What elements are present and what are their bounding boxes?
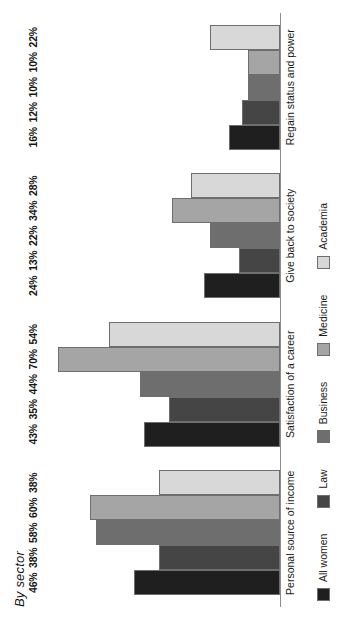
legend-item[interactable]: Law: [317, 469, 330, 507]
bar-slot: 54%: [42, 322, 280, 347]
bar-slot: 60%: [42, 495, 280, 520]
category-axis-line: [280, 13, 281, 607]
legend-swatch-icon: [317, 343, 330, 356]
bar[interactable]: 12%: [242, 100, 280, 125]
bar[interactable]: 43%: [144, 422, 280, 447]
bar-slot: 58%: [42, 520, 280, 545]
bar-slot: 28%: [42, 173, 280, 198]
bar-group: 24%13%22%34%28%: [42, 162, 280, 311]
plot-area: 46%38%58%60%38%43%35%44%70%54%24%13%22%3…: [42, 13, 280, 607]
bar-value-label: 34%: [27, 200, 39, 221]
bar[interactable]: 22%: [210, 25, 280, 50]
bar-value-label: 22%: [27, 225, 39, 246]
bar-slot: 22%: [42, 223, 280, 248]
bar-slot: 10%: [42, 75, 280, 100]
legend-label: Academia: [317, 203, 329, 250]
category-axis-labels: Personal source of incomeSatisfaction of…: [284, 13, 304, 607]
bar-value-label: 28%: [27, 175, 39, 196]
bar-value-label: 54%: [27, 324, 39, 345]
chart-rotation-container: By sector 46%38%58%60%38%43%35%44%70%54%…: [0, 0, 355, 621]
legend-label: All women: [317, 534, 329, 582]
bar-value-label: 43%: [27, 424, 39, 445]
bar-group: 16%12%10%10%22%: [42, 13, 280, 162]
bar-value-label: 13%: [27, 250, 39, 271]
legend-label: Medicine: [317, 295, 329, 337]
bar[interactable]: 58%: [96, 520, 280, 545]
bar-slot: 70%: [42, 347, 280, 372]
legend-label: Business: [317, 382, 329, 425]
bar-slot: 22%: [42, 25, 280, 50]
bar-value-label: 58%: [27, 522, 39, 543]
bar-value-label: 38%: [27, 472, 39, 493]
bar-value-label: 12%: [27, 102, 39, 123]
category-tick-label: Personal source of income: [284, 459, 304, 608]
category-tick-label: Satisfaction of a career: [284, 310, 304, 459]
bar-value-label: 70%: [27, 349, 39, 370]
legend-label: Law: [317, 469, 329, 488]
bar-slot: 12%: [42, 100, 280, 125]
bar-value-label: 22%: [27, 27, 39, 48]
legend-item[interactable]: Medicine: [317, 295, 330, 356]
bar[interactable]: 38%: [159, 470, 280, 495]
category-tick-label: Give back to society: [284, 162, 304, 311]
bar-value-label: 44%: [27, 374, 39, 395]
bar-value-label: 24%: [27, 275, 39, 296]
bar-slot: 10%: [42, 50, 280, 75]
legend-swatch-icon: [317, 495, 330, 508]
bar-value-label: 46%: [27, 572, 39, 593]
bar-group: 46%38%58%60%38%: [42, 459, 280, 608]
bar[interactable]: 70%: [58, 347, 280, 372]
chart-title: By sector: [12, 551, 27, 607]
bar-slot: 34%: [42, 198, 280, 223]
bar-value-label: 35%: [27, 399, 39, 420]
bar[interactable]: 13%: [239, 248, 280, 273]
bar[interactable]: 28%: [191, 173, 280, 198]
legend-item[interactable]: Academia: [317, 203, 330, 269]
legend-item[interactable]: Business: [317, 382, 330, 444]
legend-item[interactable]: All women: [317, 534, 330, 601]
bar[interactable]: 35%: [169, 397, 280, 422]
legend-swatch-icon: [317, 588, 330, 601]
category-tick-label: Regain status and power: [284, 13, 304, 162]
bar-value-label: 60%: [27, 497, 39, 518]
bar[interactable]: 22%: [210, 223, 280, 248]
bar-chart-figure: By sector 46%38%58%60%38%43%35%44%70%54%…: [0, 0, 355, 621]
chart-legend: All womenLawBusinessMedicineAcademia: [312, 13, 334, 607]
bar-slot: 38%: [42, 545, 280, 570]
bar-value-label: 10%: [27, 77, 39, 98]
bar[interactable]: 24%: [204, 273, 280, 298]
bar[interactable]: 44%: [140, 372, 280, 397]
bar[interactable]: 46%: [134, 570, 280, 595]
bar-slot: 43%: [42, 422, 280, 447]
bar-value-label: 38%: [27, 547, 39, 568]
bar-slot: 46%: [42, 570, 280, 595]
bar-slot: 16%: [42, 125, 280, 150]
bar-group: 43%35%44%70%54%: [42, 310, 280, 459]
bar-slot: 35%: [42, 397, 280, 422]
bar[interactable]: 54%: [109, 322, 280, 347]
bar-slot: 13%: [42, 248, 280, 273]
bar-slot: 44%: [42, 372, 280, 397]
bar[interactable]: 10%: [248, 75, 280, 100]
bar[interactable]: 34%: [172, 198, 280, 223]
bar-slot: 24%: [42, 273, 280, 298]
bar[interactable]: 38%: [159, 545, 280, 570]
bar[interactable]: 16%: [229, 125, 280, 150]
bar-value-label: 16%: [27, 127, 39, 148]
bar-slot: 38%: [42, 470, 280, 495]
bar[interactable]: 10%: [248, 50, 280, 75]
legend-swatch-icon: [317, 430, 330, 443]
bar-value-label: 10%: [27, 52, 39, 73]
bar[interactable]: 60%: [90, 495, 280, 520]
legend-swatch-icon: [317, 256, 330, 269]
